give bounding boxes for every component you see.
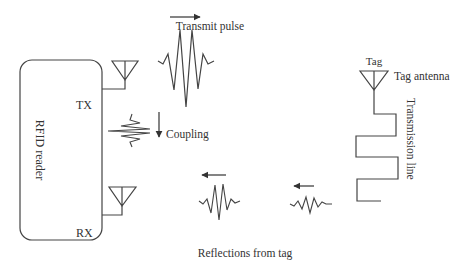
tag-antenna-label: Tag antenna: [394, 70, 450, 83]
reader-box: [20, 60, 102, 240]
coupling-waveform: [108, 114, 150, 147]
rfid-reader: RFID reader TX RX: [20, 60, 102, 240]
tag: Tag Tag antenna Transmission line: [356, 55, 450, 201]
tag-label: Tag: [366, 55, 383, 67]
transmission-line: [356, 90, 398, 201]
tx-antenna-icon: [102, 61, 138, 89]
coupling: Coupling: [108, 112, 209, 147]
reflections-label: Reflections from tag: [198, 247, 293, 260]
transmission-line-label: Transmission line: [405, 98, 417, 180]
transmit-pulse-label: Transmit pulse: [176, 20, 244, 33]
reflection-waveform-large: [199, 184, 240, 220]
coupling-label: Coupling: [166, 128, 209, 141]
tx-label: TX: [76, 98, 92, 112]
rx-antenna-icon: [102, 187, 136, 215]
tag-antenna-icon: [360, 71, 388, 90]
rfid-diagram: RFID reader TX RX Transmit pulse Couplin…: [0, 0, 462, 267]
reflection-waveform-small: [290, 197, 332, 213]
pulse-waveform: [158, 30, 214, 107]
rx-label: RX: [76, 226, 93, 240]
reflections: Reflections from tag: [198, 175, 332, 260]
reader-label: RFID reader: [33, 120, 47, 180]
transmit-pulse: Transmit pulse: [158, 17, 244, 107]
